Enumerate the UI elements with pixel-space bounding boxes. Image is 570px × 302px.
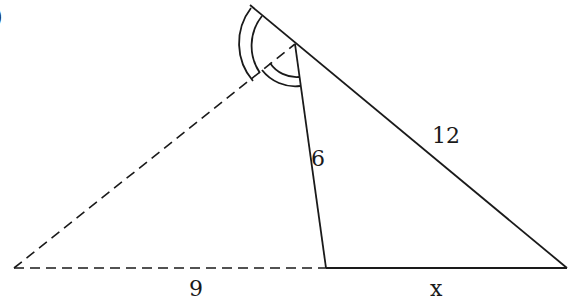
label-x: x: [430, 276, 443, 301]
label-9: 9: [189, 276, 203, 301]
label-12: 12: [432, 123, 460, 148]
label-6: 6: [311, 146, 325, 171]
inner-angle-arc-1: [270, 63, 299, 77]
outer-angle-arc-2: [252, 16, 262, 73]
dashed-extension-line: [14, 44, 295, 268]
side-12-line: [250, 5, 567, 268]
corner-mark: ): [0, 4, 3, 29]
geometry-diagram: ) 12 6 9 x: [0, 0, 570, 302]
